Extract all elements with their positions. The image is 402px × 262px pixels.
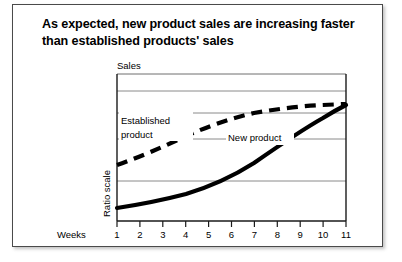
chart-container: Sales	[13, 5, 384, 248]
xtick-label-1: 1	[114, 229, 119, 240]
plot-background	[117, 74, 346, 221]
xtick-label-9: 9	[298, 229, 303, 240]
x-axis-ticks	[117, 221, 346, 227]
annotation-established-product-line2: product	[121, 129, 153, 140]
xtick-label-4: 4	[183, 229, 188, 240]
xtick-label-7: 7	[252, 229, 257, 240]
xtick-label-8: 8	[275, 229, 280, 240]
xtick-label-5: 5	[206, 229, 211, 240]
y-axis-label: Sales	[117, 60, 141, 71]
xtick-label-10: 10	[318, 229, 329, 240]
annotation-established-product: Established product	[119, 111, 193, 141]
line-chart: Sales	[13, 5, 384, 248]
ratio-scale-label: Ratio scale	[101, 170, 112, 217]
annotation-new-product-label: New product	[228, 132, 282, 143]
screenshot-root: As expected, new product sales are incre…	[0, 0, 402, 262]
figure-card: As expected, new product sales are incre…	[12, 4, 383, 247]
annotation-established-product-line1: Established	[121, 115, 170, 126]
xtick-label-6: 6	[229, 229, 234, 240]
annotation-new-product: New product	[226, 130, 294, 145]
xtick-label-11: 11	[341, 229, 351, 240]
xtick-label-3: 3	[160, 229, 165, 240]
x-axis-tick-labels: 1 2 3 4 5 6 7 8 9 10 11	[114, 229, 351, 240]
xtick-label-2: 2	[137, 229, 142, 240]
x-axis-label: Weeks	[57, 229, 86, 240]
